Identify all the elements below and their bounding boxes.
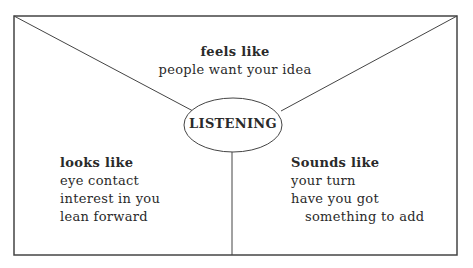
center-label: LISTENING	[184, 116, 282, 131]
looks-like-item: eye contact	[60, 172, 160, 190]
sounds-like-item: have you got	[291, 190, 424, 208]
looks-like-heading: looks like	[60, 154, 160, 172]
sounds-like-item: something to add	[291, 208, 424, 226]
sounds-like-heading: Sounds like	[291, 154, 424, 172]
y-chart-frame	[0, 0, 473, 268]
looks-like-section: looks like eye contact interest in you l…	[60, 154, 160, 226]
looks-like-item: lean forward	[60, 208, 160, 226]
looks-like-item: interest in you	[60, 190, 160, 208]
feels-like-section: feels like people want your idea	[130, 43, 340, 79]
sounds-like-item: your turn	[291, 172, 424, 190]
sounds-like-section: Sounds like your turn have you got somet…	[291, 154, 424, 226]
feels-like-item: people want your idea	[130, 61, 340, 79]
feels-like-heading: feels like	[130, 43, 340, 61]
